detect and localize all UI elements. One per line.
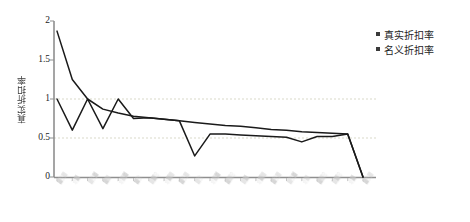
x-axis-tick-labels: ▓░▒░▓▒░▓▓▒░▒▓▓░▒▓░░▓▒▓░▒▒░░▒▓▓▒░▒▓░▓▒▓░▒…: [0, 181, 380, 222]
legend-item-nominal-discount-rate[interactable]: 名义折扣率: [376, 42, 470, 56]
gridlines: [54, 99, 376, 138]
legend-item-real-discount-rate[interactable]: 真实折扣率: [376, 27, 470, 41]
chart-screenshot: 2 1.5 1 0.5 0 真实折扣率: [0, 0, 470, 222]
legend-label: 名义折扣率: [384, 42, 435, 57]
chart-plot-area: 2 1.5 1 0.5 0 真实折扣率: [0, 0, 380, 222]
legend-marker-icon: [376, 47, 380, 51]
series-line-real-discount-rate: [57, 31, 363, 177]
legend-label: 真实折扣率: [384, 27, 435, 42]
legend-marker-icon: [376, 32, 380, 36]
chart-legend: 真实折扣率 名义折扣率: [376, 27, 470, 57]
